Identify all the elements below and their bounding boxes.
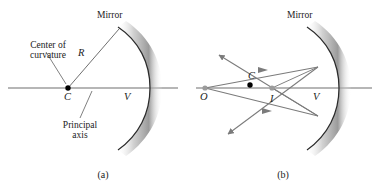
optics-figure: Mirror Center of curvature R C V Princip… xyxy=(0,0,379,192)
leader-principal-axis xyxy=(80,91,92,118)
panel-caption-b: (b) xyxy=(268,170,298,181)
point-label-v-b: V xyxy=(313,91,319,102)
point-c-b xyxy=(247,82,252,87)
converging-ray-lower xyxy=(272,88,318,116)
principal-axis-label: Principal axis xyxy=(40,120,120,141)
point-label-i-b: I xyxy=(270,93,274,104)
point-label-v-a: V xyxy=(124,91,130,102)
point-label-c-a: C xyxy=(64,91,71,102)
center-of-curvature-line-1: Center of xyxy=(8,40,88,50)
ray-direction-arrow-upper xyxy=(258,67,268,73)
point-label-o-b: O xyxy=(200,91,208,102)
converging-ray-upper xyxy=(272,67,318,88)
panel-b-graphics xyxy=(196,21,372,156)
radius-label-r: R xyxy=(78,47,84,58)
point-label-c-b: C xyxy=(248,70,255,81)
ray-direction-arrow-lower xyxy=(262,108,272,114)
incident-ray-lower xyxy=(205,88,318,116)
principal-axis-line-1: Principal xyxy=(40,120,120,130)
center-of-curvature-line-2: curvature xyxy=(8,50,88,60)
mirror-label-b: Mirror xyxy=(287,10,312,20)
figure-canvas xyxy=(0,0,379,192)
principal-axis-line-2: axis xyxy=(40,130,120,140)
point-c-a xyxy=(65,85,70,90)
point-i-b xyxy=(269,85,274,90)
mirror-label-a: Mirror xyxy=(97,10,122,20)
panel-caption-a: (a) xyxy=(88,170,118,181)
center-of-curvature-label: Center of curvature xyxy=(8,40,88,61)
point-o-b xyxy=(202,85,207,90)
